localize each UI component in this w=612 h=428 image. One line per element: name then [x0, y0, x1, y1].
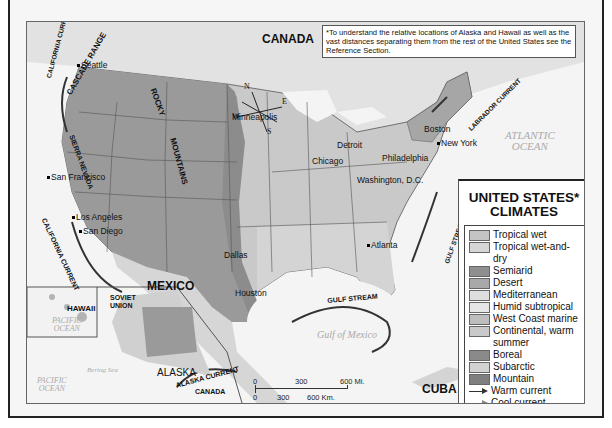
legend-item-west-coast-marine: West Coast marine: [469, 313, 580, 325]
compass-s: S: [267, 127, 271, 136]
city-washington-dc: Washington, D.C.: [357, 175, 423, 185]
city-seattle: Seattle: [77, 60, 107, 70]
swatch: [469, 350, 490, 361]
legend-item-mediterranean: Mediterranean: [469, 289, 580, 301]
label-mexico: MEXICO: [147, 279, 194, 293]
swatch: [469, 266, 490, 277]
scale-km-300: 300: [277, 393, 290, 402]
legend-item-tropical-wet-dry: Tropical wet-and-dry: [469, 241, 580, 265]
label-atlantic-ocean: ATLANTICOCEAN: [505, 130, 555, 152]
climate-legend: UNITED STATES*CLIMATES Tropical wet Trop…: [458, 179, 585, 404]
swatch: [469, 290, 490, 301]
label-soviet-union: SOVIET UNION: [110, 294, 140, 310]
scale-km-600: 600 Km.: [307, 393, 335, 402]
swatch: [469, 314, 490, 325]
swatch: [469, 374, 490, 385]
legend-item-continental: Continental, warm summer: [469, 325, 580, 349]
city-dallas: Dallas: [224, 250, 248, 260]
legend-box: Tropical wet Tropical wet-and-dry Semiar…: [464, 225, 585, 404]
legend-title: UNITED STATES*CLIMATES: [459, 191, 585, 219]
legend-item-desert: Desert: [469, 277, 580, 289]
city-houston: Houston: [235, 288, 267, 298]
city-new-york: New York: [437, 138, 477, 148]
swatch: [469, 278, 490, 289]
scale-km-0: 0: [253, 393, 257, 402]
legend-item-mountain: Mountain: [469, 373, 580, 385]
city-san-francisco: San Francisco: [47, 172, 105, 182]
warm-current-arrow-icon: [469, 385, 488, 397]
compass-n: N: [244, 82, 250, 91]
legend-item-semiarid: Semiarid: [469, 265, 580, 277]
label-hawaii: HAWAII: [67, 304, 95, 313]
label-pacific-ocean-alaska: PACIFICOCEAN: [37, 377, 67, 393]
label-canada: CANADA: [262, 32, 314, 46]
legend-item-warm-current: Warm current: [469, 385, 580, 397]
page-frame: *To understand the relative locations of…: [8, 0, 604, 418]
compass-e: E: [282, 97, 287, 106]
legend-item-tropical-wet: Tropical wet: [469, 229, 580, 241]
label-canada-inset: CANADA: [195, 388, 225, 395]
label-gulf-of-mexico: Gulf of Mexico: [317, 330, 377, 340]
city-san-diego: San Diego: [79, 226, 123, 236]
city-boston: Boston: [424, 124, 450, 134]
label-bering-sea: Bering Sea: [87, 367, 118, 374]
swatch: [469, 230, 490, 241]
city-philadelphia: Philadelphia: [382, 153, 428, 163]
city-los-angeles: Los Angeles: [72, 212, 122, 222]
swatch: [469, 326, 490, 337]
legend-item-subarctic: Subarctic: [469, 361, 580, 373]
swatch: [469, 242, 490, 253]
label-alaska: ALASKA: [157, 367, 196, 378]
label-pacific-ocean-hawaii: PACIFICOCEAN: [52, 317, 82, 333]
scale-mi-600: 600 Mi.: [340, 377, 365, 386]
map-scale: 0 300 600 Mi. 0 300 600 Km.: [255, 377, 375, 404]
reference-note: *To understand the relative locations of…: [322, 25, 576, 58]
compass-w: W: [232, 112, 240, 121]
scale-mi-300: 300: [295, 377, 308, 386]
city-chicago: Chicago: [312, 156, 343, 166]
label-cuba: CUBA: [422, 382, 457, 396]
city-detroit: Detroit: [337, 140, 362, 150]
legend-item-humid-subtropical: Humid subtropical: [469, 301, 580, 313]
swatch: [469, 302, 490, 313]
cool-current-arrow-icon: [469, 397, 488, 404]
climate-map: *To understand the relative locations of…: [26, 21, 585, 404]
city-atlanta: Atlanta: [367, 240, 397, 250]
legend-item-boreal: Boreal: [469, 349, 580, 361]
swatch: [469, 362, 490, 373]
legend-item-cool-current: Cool current: [469, 397, 580, 404]
